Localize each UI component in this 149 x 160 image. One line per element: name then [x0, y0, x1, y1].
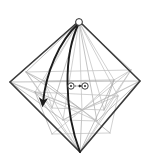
geometric-mesh-figure [0, 0, 149, 160]
apex-hub [76, 19, 83, 26]
apex-node [76, 19, 83, 26]
marker-origin-center-dot [70, 85, 72, 87]
marker-target-center-dot [84, 85, 86, 87]
diagram-canvas [0, 0, 149, 160]
